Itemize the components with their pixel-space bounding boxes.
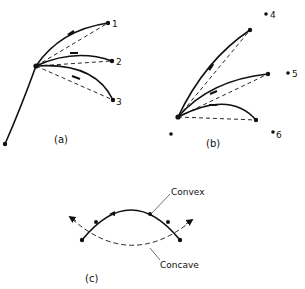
convex-leader bbox=[152, 194, 170, 213]
panel-a bbox=[3, 21, 115, 146]
panel-a-label: (a) bbox=[54, 134, 68, 145]
point-label-3: 3 bbox=[116, 97, 122, 107]
diagram-canvas: 1 2 3 (a) 4 5 6 (b) bbox=[0, 0, 305, 289]
panel-b bbox=[169, 12, 290, 136]
panel-c-label: (c) bbox=[85, 273, 98, 284]
panel-c bbox=[70, 194, 192, 260]
concave-label: Concave bbox=[160, 260, 199, 270]
point-label-2: 2 bbox=[116, 57, 122, 67]
stem-curve bbox=[5, 66, 36, 144]
panel-b-label: (b) bbox=[206, 138, 220, 149]
convex-arc bbox=[82, 210, 180, 240]
point-label-4: 4 bbox=[270, 10, 276, 20]
concave-leader bbox=[150, 248, 160, 260]
point-label-6: 6 bbox=[276, 130, 282, 140]
point-label-1: 1 bbox=[112, 19, 118, 29]
point-label-5: 5 bbox=[292, 69, 298, 79]
convex-label: Convex bbox=[171, 187, 205, 197]
curve-6 bbox=[178, 104, 256, 120]
chord-1 bbox=[36, 23, 108, 66]
curve-2 bbox=[36, 56, 112, 66]
